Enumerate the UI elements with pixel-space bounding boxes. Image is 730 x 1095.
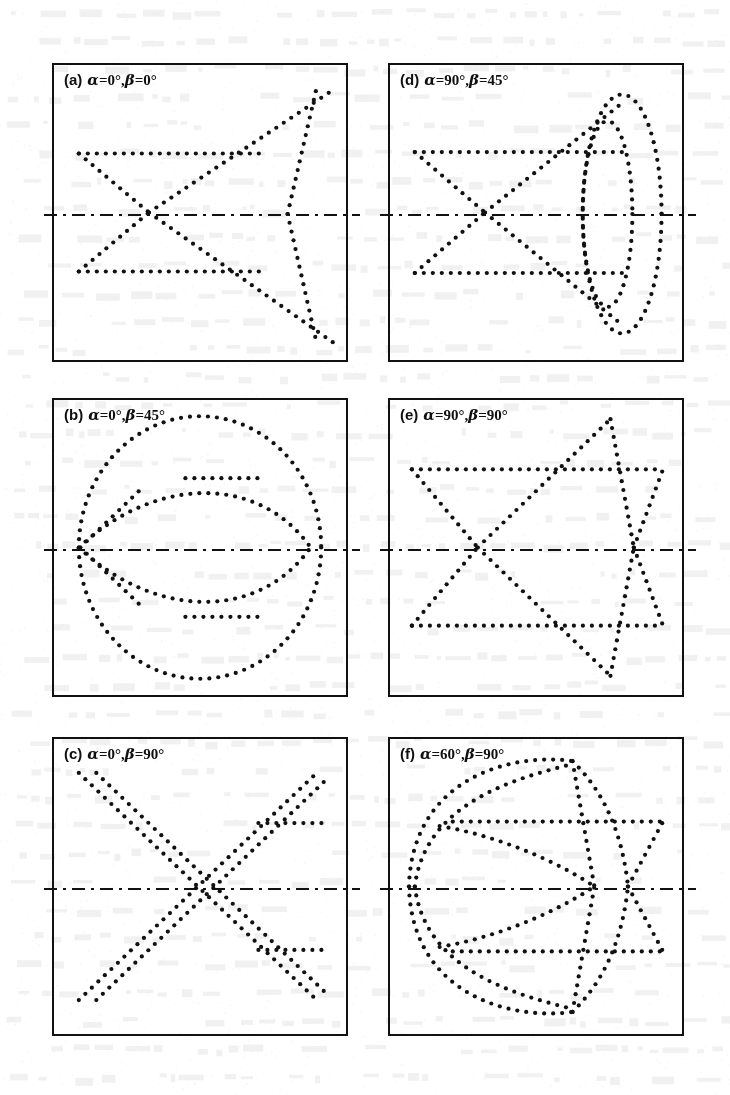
panel-a: (a)α=0°,β=0°	[52, 63, 348, 362]
panel-e-params: α=90°,β=90°	[423, 407, 507, 423]
panel-b-tag: (b)	[64, 406, 83, 423]
panel-e: (e)α=90°,β=90°	[388, 398, 684, 697]
panel-f-centerline	[380, 888, 696, 890]
panel-d-params: α=90°,β=45°	[424, 72, 508, 88]
panel-f-label: (f)α=60°,β=90°	[400, 745, 504, 763]
panel-b-centerline	[44, 549, 360, 551]
panel-a-dot-plot	[54, 65, 346, 360]
panel-d-centerline	[380, 214, 696, 216]
panel-f-tag: (f)	[400, 745, 415, 762]
panel-e-centerline	[380, 549, 696, 551]
panel-b: (b)α=0°,β=45°	[52, 398, 348, 697]
panel-e-dot-plot	[390, 400, 682, 695]
panel-a-centerline	[44, 214, 360, 216]
panel-a-params: α=0°,β=0°	[87, 72, 156, 88]
panel-c-centerline	[44, 888, 360, 890]
panel-b-dot-plot	[54, 400, 346, 695]
panel-d: (d)α=90°,β=45°	[388, 63, 684, 362]
panel-c: (c)α=0°,β=90°	[52, 737, 348, 1036]
panel-d-tag: (d)	[400, 71, 419, 88]
panel-a-tag: (a)	[64, 71, 82, 88]
panel-c-dot-plot	[54, 739, 346, 1034]
panel-f: (f)α=60°,β=90°	[388, 737, 684, 1036]
panel-c-params: α=0°,β=90°	[87, 746, 164, 762]
panel-e-tag: (e)	[400, 406, 418, 423]
panel-b-params: α=0°,β=45°	[88, 407, 165, 423]
panel-f-dot-plot	[390, 739, 682, 1034]
panel-f-params: α=60°,β=90°	[420, 746, 504, 762]
figure-root: (a)α=0°,β=0°(b)α=0°,β=45°(c)α=0°,β=90°(d…	[0, 0, 730, 1095]
panel-a-label: (a)α=0°,β=0°	[64, 71, 157, 89]
panel-b-label: (b)α=0°,β=45°	[64, 406, 165, 424]
panel-c-label: (c)α=0°,β=90°	[64, 745, 164, 763]
panel-c-tag: (c)	[64, 745, 82, 762]
panel-d-label: (d)α=90°,β=45°	[400, 71, 509, 89]
panel-e-label: (e)α=90°,β=90°	[400, 406, 508, 424]
panel-d-dot-plot	[390, 65, 682, 360]
